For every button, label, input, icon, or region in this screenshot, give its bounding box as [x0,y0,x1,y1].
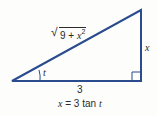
triangle [12,10,141,81]
caption-var: t [99,98,102,109]
angle-label: t [43,68,46,78]
right-angle-marker [132,72,141,81]
angle-arc [39,70,40,81]
horizontal-side-label: 3 [77,85,83,95]
radicand: 9 + x2 [59,27,86,41]
sqrt-symbol: √ [51,26,58,38]
caption-rhs: = 3 tan [62,98,98,109]
caption-equation: x = 3 tan t [58,99,102,109]
radicand-exponent: 2 [81,28,85,35]
vertical-side-label: x [145,43,149,53]
radicand-constant: 9 + [60,30,77,41]
